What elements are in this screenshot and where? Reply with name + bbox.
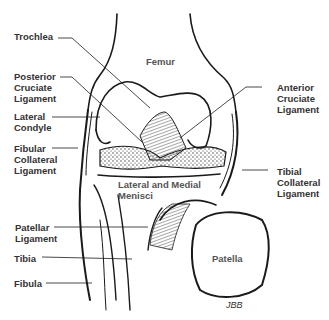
femur-right-edge (190, 14, 236, 112)
label-anterior-cruciate-ligament: Anterior Cruciate Ligament (277, 82, 319, 115)
knee-anatomy-diagram: Trochlea Femur Posterior Cruciate Ligame… (0, 0, 329, 320)
artist-signature: JBB (226, 300, 243, 311)
label-patella: Patella (212, 253, 243, 264)
label-tibial-collateral-ligament: Tibial Collateral Ligament (277, 166, 320, 199)
label-posterior-cruciate-ligament: Posterior Cruciate Ligament (14, 71, 56, 104)
label-fibula: Fibula (14, 278, 42, 289)
label-lateral-condyle: Lateral Condyle (14, 111, 51, 133)
label-tibia: Tibia (14, 253, 36, 264)
label-fibular-collateral-ligament: Fibular Collateral Ligament (14, 143, 57, 176)
label-patellar-ligament: Patellar Ligament (15, 222, 57, 244)
label-menisci: Lateral and Medial Menisci (118, 179, 201, 201)
label-femur: Femur (146, 56, 175, 67)
cruciate-ligaments (140, 112, 186, 160)
label-trochlea: Trochlea (14, 31, 53, 42)
